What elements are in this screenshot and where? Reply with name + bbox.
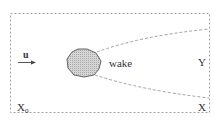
outlet-boundary-label: X (198, 102, 206, 113)
inlet-boundary-label-subscript: 0 (25, 107, 29, 115)
velocity-arrow-icon (18, 61, 36, 65)
inlet-boundary-label: X0 (17, 102, 28, 115)
inlet-boundary-label-base: X (17, 101, 25, 113)
body-shape (67, 49, 101, 77)
wake-label: wake (109, 58, 132, 69)
wake-upper-line (97, 29, 209, 52)
velocity-label: u (23, 50, 29, 60)
wake-lower-line (95, 75, 209, 98)
outlet-line-label: Y (198, 57, 206, 68)
